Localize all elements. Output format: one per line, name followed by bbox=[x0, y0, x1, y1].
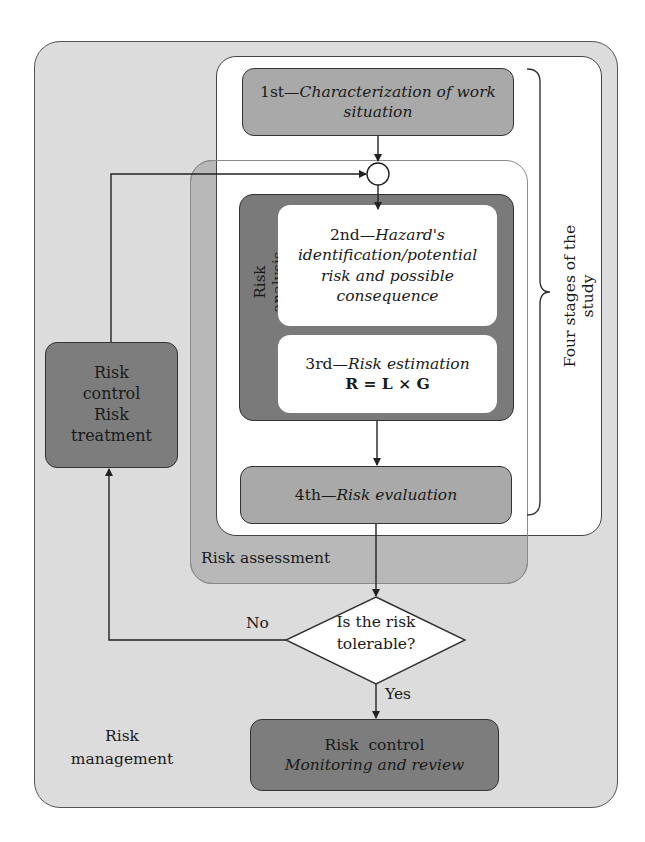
no-branch-label: No bbox=[246, 614, 269, 632]
connectors bbox=[0, 0, 645, 842]
risk-management-label: Risk management bbox=[60, 725, 184, 772]
yes-branch-label: Yes bbox=[385, 685, 411, 703]
four-stages-label: Four stages of the study bbox=[561, 201, 585, 391]
mgmt-line1: Risk bbox=[60, 725, 184, 748]
junction-node bbox=[367, 163, 389, 185]
risk-assessment-label: Risk assessment bbox=[201, 549, 330, 567]
decision-line2: tolerable? bbox=[310, 634, 442, 656]
decision-line1: Is the risk bbox=[310, 612, 442, 634]
mgmt-line2: management bbox=[60, 748, 184, 771]
decision-question: Is the risk tolerable? bbox=[310, 612, 442, 655]
stages-brace-icon bbox=[527, 69, 550, 515]
